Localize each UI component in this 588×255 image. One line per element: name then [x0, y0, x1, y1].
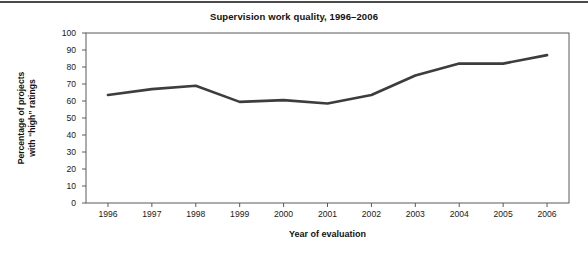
data-series-line — [108, 55, 547, 103]
chart-figure: Supervision work quality, 1996–2006 Perc… — [0, 0, 588, 255]
plot-border — [86, 33, 569, 203]
x-axis-label: Year of evaluation — [86, 229, 569, 239]
series-group — [108, 55, 547, 103]
plot-area — [0, 0, 588, 255]
y-tick-marks — [82, 33, 86, 203]
x-tick-marks — [108, 203, 547, 207]
axes-group — [82, 33, 569, 207]
